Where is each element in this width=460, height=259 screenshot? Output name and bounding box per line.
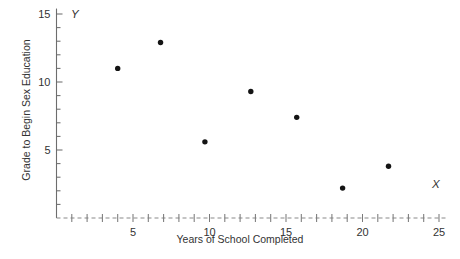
data-point xyxy=(115,66,120,71)
y-tick-label: 10 xyxy=(38,76,50,88)
y-axis: 51015 xyxy=(38,8,62,218)
plot-canvas: 51015 510152025 Y X Years of School Comp… xyxy=(0,0,460,259)
x-tick-label: 20 xyxy=(356,226,368,238)
data-points-group xyxy=(115,40,391,191)
x-axis-title: Years of School Completed xyxy=(177,233,304,245)
data-point xyxy=(294,115,299,120)
data-point xyxy=(248,89,253,94)
scatter-plot-figure: 51015 510152025 Y X Years of School Comp… xyxy=(0,0,460,259)
data-point xyxy=(386,164,391,169)
y-axis-title: Grade to Begin Sex Education xyxy=(20,39,32,180)
data-point xyxy=(340,185,345,190)
x-tick-label: 5 xyxy=(130,226,136,238)
y-tick-label: 15 xyxy=(38,8,50,20)
y-axis-letter: Y xyxy=(71,8,80,20)
x-tick-label: 25 xyxy=(433,226,445,238)
y-tick-label: 5 xyxy=(44,144,50,156)
data-point xyxy=(202,139,207,144)
x-axis-letter: X xyxy=(431,178,441,190)
data-point xyxy=(158,40,163,45)
